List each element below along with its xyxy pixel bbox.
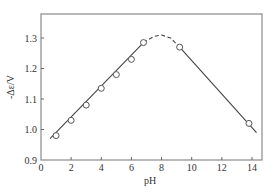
- data-point-marker: [177, 44, 183, 50]
- data-point-marker: [53, 133, 59, 139]
- x-tick-label: 2: [69, 162, 74, 173]
- y-tick-label: 1.0: [25, 124, 38, 135]
- alkaline-branch-fit-line: [180, 47, 257, 132]
- y-tick-label: 1.3: [25, 33, 38, 44]
- x-tick-label: 12: [217, 162, 227, 173]
- y-tick-label: 1.1: [25, 94, 38, 105]
- chart: 024681012140.91.01.11.21.3 pH -Δε/V: [0, 0, 272, 193]
- y-tick-label: 1.2: [25, 63, 38, 74]
- data-point-marker: [140, 40, 146, 46]
- axis-ticks: 024681012140.91.01.11.21.3: [25, 33, 257, 174]
- data-point-marker: [68, 117, 74, 123]
- data-point-marker: [246, 120, 252, 126]
- x-axis-label: pH: [144, 175, 156, 186]
- data-point-marker: [98, 85, 104, 91]
- x-tick-label: 0: [39, 162, 44, 173]
- x-tick-label: 6: [129, 162, 134, 173]
- data-point-marker: [83, 102, 89, 108]
- x-tick-label: 4: [99, 162, 104, 173]
- x-tick-label: 8: [159, 162, 164, 173]
- plot-border: [41, 14, 262, 160]
- plot-frame: [41, 14, 262, 160]
- x-tick-label: 14: [247, 162, 257, 173]
- x-tick-label: 10: [187, 162, 197, 173]
- data-point-marker: [113, 72, 119, 78]
- data-point-marker: [128, 56, 134, 62]
- y-tick-label: 0.9: [25, 155, 38, 166]
- y-axis-label: -Δε/V: [5, 74, 16, 99]
- data-series: [50, 35, 256, 139]
- transition-line: [143, 35, 179, 47]
